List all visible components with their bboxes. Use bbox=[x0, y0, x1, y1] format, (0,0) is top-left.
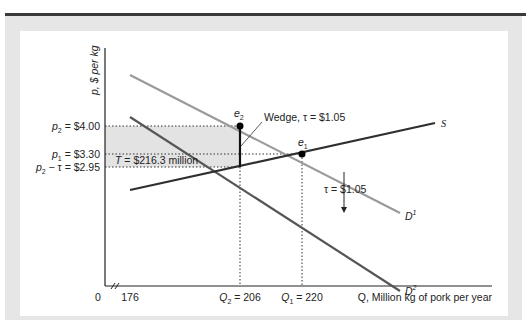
supply-label: S bbox=[441, 118, 447, 129]
point-e2 bbox=[237, 123, 244, 130]
y-tick-p2-minus-tau: p2 − τ = $2.95 bbox=[35, 161, 100, 175]
x-tick-176: 176 bbox=[121, 291, 139, 303]
x-axis-label: Q, Million kg of pork per year bbox=[358, 291, 493, 303]
x-tick-q1: Q1 = 220 bbox=[281, 291, 323, 305]
x-tick-q2: Q2 = 206 bbox=[219, 291, 261, 305]
chart: p, $ per kg p2 = $4.00 p1 = $3.30 p2 − τ… bbox=[0, 0, 531, 327]
tau-shift-label: τ = $1.05 bbox=[324, 183, 367, 195]
wedge-label: Wedge, τ = $1.05 bbox=[264, 111, 345, 123]
x-tick-zero: 0 bbox=[95, 291, 101, 303]
tax-revenue-label: T = $216.3 million bbox=[115, 154, 198, 166]
e2-label: e2 bbox=[234, 107, 244, 121]
d1-label: D1 bbox=[405, 209, 417, 222]
arrow-down-icon bbox=[341, 207, 347, 213]
point-e1 bbox=[299, 151, 306, 158]
e1-label: e1 bbox=[298, 136, 308, 150]
y-tick-p1: p1 = $3.30 bbox=[51, 148, 100, 162]
y-tick-p2: p2 = $4.00 bbox=[51, 120, 100, 134]
y-axis-label: p, $ per kg bbox=[88, 45, 100, 96]
